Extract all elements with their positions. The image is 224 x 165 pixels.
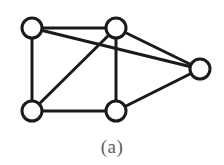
graph-edge (116, 69, 200, 111)
figure-panel: (a) (0, 0, 224, 165)
graph-node (106, 18, 126, 38)
graph-node (190, 59, 210, 79)
graph-node (106, 101, 126, 121)
graph-node (22, 101, 42, 121)
graph-node (22, 18, 42, 38)
graph-edge (32, 28, 116, 111)
graph-edge (116, 28, 200, 69)
edge-layer (32, 28, 200, 111)
figure-caption: (a) (0, 134, 224, 160)
